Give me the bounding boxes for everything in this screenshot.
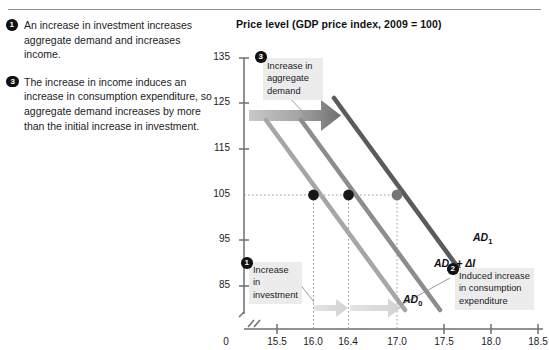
curve-label-ad0-text: AD0 [403, 293, 422, 305]
curve-label-ad1-text: AD1 [473, 231, 492, 243]
induced-consumption-arrow [350, 299, 401, 318]
y-tick-label: 105 [204, 188, 230, 199]
callout-badge-2: 2 [447, 263, 459, 275]
x-tick-label: 16.0 [298, 336, 328, 347]
explanation-list: 1 An increase in investment increases ag… [6, 18, 218, 146]
x-tick-label: 18.0 [476, 336, 506, 347]
x-tick-label: 15.5 [262, 336, 292, 347]
curve-label-ad0: AD0 [403, 293, 422, 308]
equilibrium-dot-ad1 [392, 190, 403, 201]
equilibrium-dot-ad0-plus [343, 190, 354, 201]
x-tick-label: 17.5 [429, 336, 459, 347]
x-tick-label: 16.4 [333, 336, 363, 347]
list-item: 1 An increase in investment increases ag… [6, 18, 218, 62]
callout-leaders [281, 89, 450, 305]
callout-text-2: Induced increase in consumption expendit… [459, 271, 530, 306]
curve-label-ad1: AD1 [473, 231, 492, 246]
header-divider [8, 9, 541, 10]
axis-break-marks [239, 312, 260, 327]
callout-text-3: Increase in aggregate demand [267, 61, 312, 96]
step-badge-3-inline: 3 [7, 76, 19, 88]
callout-increase-in-investment: Increase in investment [249, 262, 302, 304]
callout-aggregate-demand: Increase in aggregate demand [263, 58, 323, 100]
aggregate-demand-shift-arrow [249, 100, 341, 131]
callout-induced-consumption: Induced increase in consumption expendit… [455, 268, 534, 310]
y-tick-label: 85 [204, 279, 230, 290]
note-text-2-part1: The increase in income induces an increa… [24, 76, 212, 103]
note-text-2-part2: aggregate demand increases by more than … [24, 105, 201, 132]
callout-badge-3: 3 [255, 51, 267, 63]
y-tick-label: 125 [204, 96, 230, 107]
investment-increase-arrow [314, 299, 348, 317]
x-tick-label: 18.5 [523, 336, 549, 347]
list-item: 2 The increase in income induces an incr… [6, 75, 218, 133]
y-tick-label: 135 [204, 51, 230, 62]
y-tick-label: 115 [204, 142, 230, 153]
note-text-1: An increase in investment increases aggr… [24, 19, 192, 60]
y-tick-label: 95 [204, 233, 230, 244]
callout-text-1: Increase in investment [253, 265, 298, 300]
chart-container: Price level (GDP price index, 2009 = 100… [218, 14, 549, 350]
figure-root: { "notes": [ { "num": "1", "text_before"… [0, 0, 549, 350]
x-tick-label: 17.0 [382, 336, 412, 347]
equilibrium-dot-ad0 [308, 190, 319, 201]
step-badge-1: 1 [6, 19, 18, 31]
callout-badge-1: 1 [241, 257, 253, 269]
x-tick-label: 0 [211, 336, 241, 347]
